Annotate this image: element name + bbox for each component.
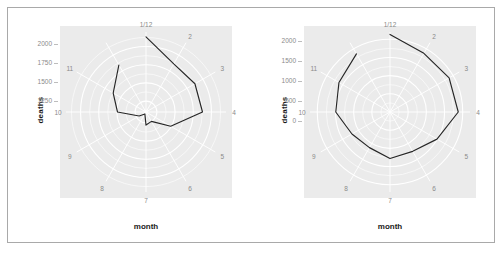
y-tick-label: 1500 xyxy=(12,78,58,85)
polar-plot-area-right: 1/12234567891011 xyxy=(304,26,476,198)
theta-tick-label: 6 xyxy=(188,185,192,192)
theta-tick-label: 11 xyxy=(66,65,73,72)
theta-tick-label: 2 xyxy=(188,32,192,39)
theta-gridline xyxy=(77,72,146,112)
tick-mark-icon xyxy=(298,41,302,42)
theta-gridline xyxy=(146,43,186,112)
theta-tick-label: 5 xyxy=(220,153,224,160)
tick-mark-icon xyxy=(298,81,302,82)
y-tick-label: 1000 xyxy=(256,77,302,84)
theta-gridline xyxy=(146,112,215,152)
data-line-left-polar xyxy=(113,37,202,126)
figure-frame: deaths 2000 1750 1500 1250 1/12234567891… xyxy=(7,7,495,243)
tick-mark-icon xyxy=(54,63,58,64)
theta-tick-label: 7 xyxy=(388,197,392,204)
theta-tick-label: 1/12 xyxy=(384,21,397,28)
y-tick-label: 2000 xyxy=(256,37,302,44)
theta-tick-label: 5 xyxy=(464,153,468,160)
theta-tick-label: 1/12 xyxy=(140,21,153,28)
theta-tick-label: 9 xyxy=(68,153,72,160)
theta-tick-label: 3 xyxy=(464,65,468,72)
y-tick-label: 2000 xyxy=(12,40,58,47)
theta-tick-label: 10 xyxy=(54,109,61,116)
x-axis-title-left: month xyxy=(56,222,236,231)
theta-gridline xyxy=(106,43,146,112)
tick-mark-icon xyxy=(54,82,58,83)
theta-tick-label: 7 xyxy=(144,197,148,204)
polar-plot-area-left: 1/12234567891011 xyxy=(60,26,232,198)
theta-tick-label: 6 xyxy=(432,185,436,192)
theta-gridline xyxy=(390,112,459,152)
chart-panel-left: deaths 2000 1750 1500 1250 1/12234567891… xyxy=(8,8,252,242)
theta-tick-label: 2 xyxy=(432,32,436,39)
theta-gridline xyxy=(390,112,430,181)
y-tick-label: 1500 xyxy=(256,57,302,64)
tick-mark-icon xyxy=(298,101,302,102)
theta-tick-label: 8 xyxy=(344,185,348,192)
tick-mark-icon xyxy=(54,44,58,45)
polar-grid-left-polar xyxy=(60,26,232,198)
theta-tick-label: 11 xyxy=(310,65,317,72)
theta-tick-label: 4 xyxy=(476,109,480,116)
theta-gridline xyxy=(77,112,146,152)
theta-tick-label: 3 xyxy=(220,65,224,72)
y-tick-label: 1250 xyxy=(12,97,58,104)
tick-mark-icon xyxy=(298,121,302,122)
y-axis-ticks-right: 2000 1500 1000 500 0 xyxy=(252,8,302,242)
polar-grid-right-polar xyxy=(304,26,476,198)
chart-panel-right: deaths 2000 1500 1000 500 0 1/1223456789… xyxy=(252,8,496,242)
y-tick-label: 1750 xyxy=(12,59,58,66)
y-tick-label: 500 xyxy=(256,97,302,104)
theta-tick-label: 10 xyxy=(298,109,305,116)
theta-gridline xyxy=(321,112,390,152)
x-axis-title-right: month xyxy=(300,222,480,231)
theta-gridline xyxy=(106,112,146,181)
theta-gridline xyxy=(321,72,390,112)
y-tick-label: 0 xyxy=(256,117,302,124)
theta-tick-label: 9 xyxy=(312,153,316,160)
theta-gridline xyxy=(146,72,215,112)
tick-mark-icon xyxy=(54,101,58,102)
theta-tick-label: 8 xyxy=(100,185,104,192)
y-axis-ticks-left: 2000 1750 1500 1250 xyxy=(8,8,58,242)
theta-gridline xyxy=(350,112,390,181)
theta-gridline xyxy=(350,43,390,112)
tick-mark-icon xyxy=(298,61,302,62)
theta-tick-label: 4 xyxy=(232,109,236,116)
